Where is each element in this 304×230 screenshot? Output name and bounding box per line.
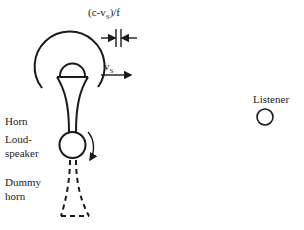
inner-wavefront-dome xyxy=(60,64,85,77)
wavefront-spacing-marker xyxy=(101,29,137,47)
loudspeaker-label-line1: Loud- xyxy=(5,133,32,145)
dummy-horn-label-line2: horn xyxy=(5,190,26,202)
listener-label: Listener xyxy=(253,93,289,105)
wavelength-label: (c-vS)/f xyxy=(88,6,120,21)
velocity-label: vS xyxy=(104,60,114,75)
listener-icon xyxy=(257,109,273,125)
doppler-rotating-horn-diagram: (c-vS)/f vS Horn Loud- speaker Dummy hor… xyxy=(0,0,304,230)
horn-label: Horn xyxy=(5,115,28,127)
loudspeaker-label-line2: speaker xyxy=(5,147,39,159)
dummy-horn-label-line1: Dummy xyxy=(5,176,42,188)
dummy-horn-icon xyxy=(61,160,89,216)
loudspeaker-icon xyxy=(60,132,86,158)
diagram-canvas: (c-vS)/f vS Horn Loud- speaker Dummy hor… xyxy=(0,0,304,230)
rotation-arrow-icon xyxy=(88,132,94,160)
outer-wavefront-arc xyxy=(35,32,105,88)
horn-icon xyxy=(57,77,88,132)
